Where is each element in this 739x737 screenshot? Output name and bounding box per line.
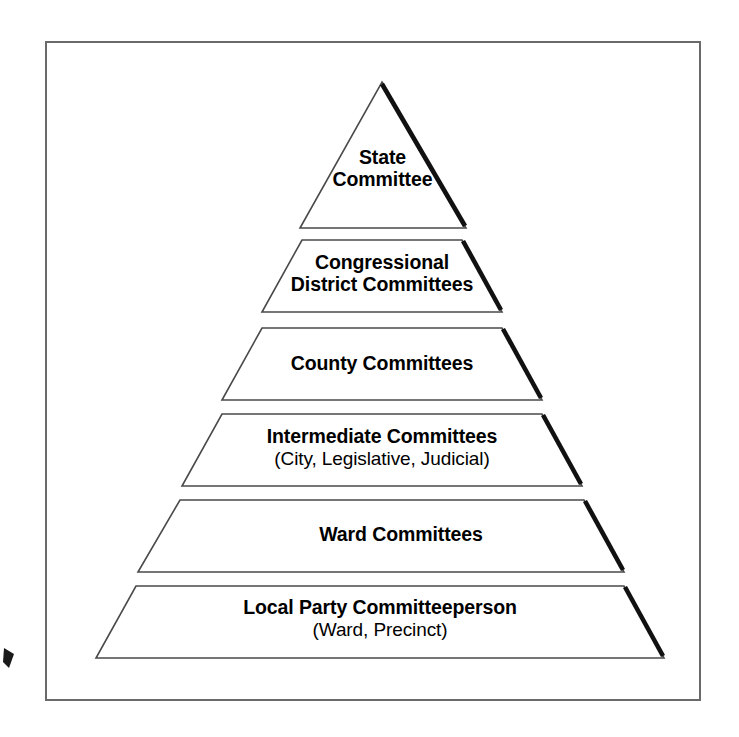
tier-4-shape (182, 414, 582, 486)
tier-5-shape (138, 500, 624, 572)
pyramid-graphic (0, 0, 739, 737)
tier-3-shape (222, 328, 542, 400)
pyramid-diagram-figure: State Committee Congressional District C… (0, 0, 739, 737)
tier-1-shape (300, 82, 466, 228)
tier-6-shape (96, 586, 664, 658)
scan-artifact-speck (3, 648, 14, 668)
